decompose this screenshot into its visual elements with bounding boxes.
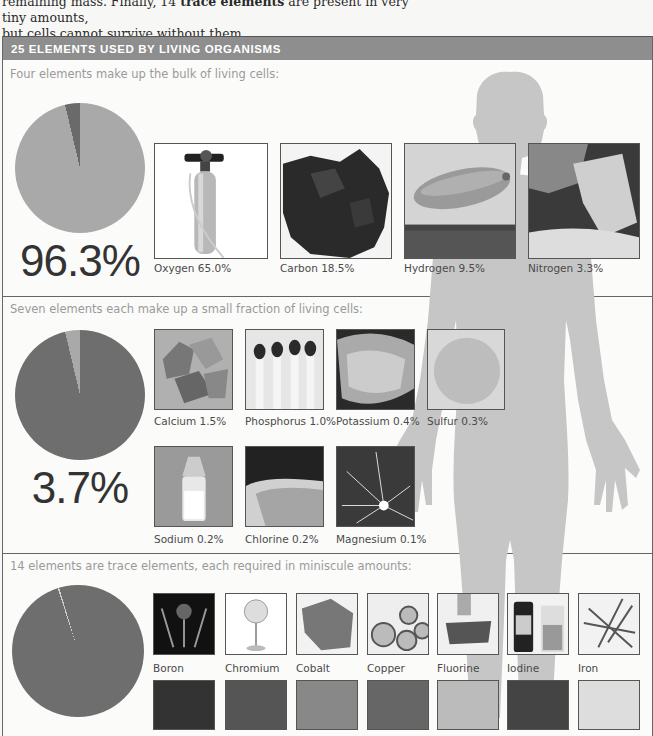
mirror-icon — [226, 594, 286, 654]
cobalt-ore-icon — [297, 594, 357, 654]
matches-icon — [246, 330, 323, 409]
label-nitrogen: Nitrogen 3.3% — [528, 262, 603, 274]
thumb-sodium — [154, 446, 233, 527]
minor-elements-percent: 3.7% — [20, 463, 140, 513]
thumb-trace-row2-2 — [225, 680, 287, 730]
thumb-oxygen — [154, 143, 268, 259]
thumb-potassium — [336, 329, 415, 410]
airship-icon — [405, 144, 515, 258]
section2-subtitle: Seven elements each make up a small frac… — [10, 302, 363, 316]
section3-subtitle: 14 elements are trace elements, each req… — [10, 559, 412, 573]
thumb-iron — [578, 593, 640, 655]
label-chlorine: Chlorine 0.2% — [245, 533, 319, 545]
toothbrush-icon — [438, 594, 498, 654]
fertilizer-bag-icon — [529, 144, 639, 258]
thumb-trace-row2-5 — [437, 680, 499, 730]
panel-title: 25 ELEMENTS USED BY LIVING ORGANISMS — [3, 36, 652, 60]
label-calcium: Calcium 1.5% — [154, 415, 226, 427]
copper-pipes-icon — [368, 594, 428, 654]
thumb-trace-row2-3 — [296, 680, 358, 730]
label-magnesium: Magnesium 0.1% — [336, 533, 427, 545]
section-divider — [3, 296, 652, 297]
pie-chart-major-elements — [15, 103, 145, 233]
pie-chart-minor-elements — [15, 330, 145, 460]
label-potassium: Potassium 0.4% — [336, 415, 420, 427]
coal-lump-icon — [281, 144, 391, 258]
section-divider — [3, 553, 652, 554]
label-carbon: Carbon 18.5% — [280, 262, 355, 274]
trace-elements-term: trace elements — [180, 0, 284, 9]
thumb-magnesium — [336, 446, 415, 527]
label-copper: Copper — [367, 662, 405, 674]
thumb-sulfur — [427, 329, 505, 410]
label-hydrogen: Hydrogen 9.5% — [404, 262, 485, 274]
nails-icon — [579, 594, 639, 654]
sulfur-powder-icon — [428, 330, 504, 409]
intro-text: remaining mass. Finally, 14 — [2, 0, 180, 9]
label-sodium: Sodium 0.2% — [154, 533, 224, 545]
label-cobalt: Cobalt — [296, 662, 330, 674]
thumb-trace-row2-7 — [578, 680, 640, 730]
thumb-chromium — [225, 593, 287, 655]
calcium-rocks-icon — [155, 330, 232, 409]
thumb-nitrogen — [528, 143, 640, 259]
iodine-bottle-icon — [508, 594, 568, 654]
label-sulfur: Sulfur 0.3% — [427, 415, 488, 427]
salt-shaker-icon — [155, 447, 232, 526]
label-phosphorus: Phosphorus 1.0% — [245, 415, 336, 427]
thumb-phosphorus — [245, 329, 324, 410]
major-elements-percent: 96.3% — [20, 236, 140, 286]
section1-subtitle: Four elements make up the bulk of living… — [10, 67, 279, 81]
potash-in-hand-icon — [337, 330, 414, 409]
label-iron: Iron — [578, 662, 598, 674]
thumb-copper — [367, 593, 429, 655]
label-fluorine: Fluorine — [437, 662, 479, 674]
label-chromium: Chromium — [225, 662, 280, 674]
label-boron: Boron — [153, 662, 184, 674]
pie-chart-trace-elements — [12, 585, 144, 717]
oxygen-tank-icon — [155, 144, 267, 258]
thumb-trace-row2-6 — [507, 680, 569, 730]
label-oxygen: Oxygen 65.0% — [154, 262, 231, 274]
boron-apparatus-icon — [154, 594, 214, 654]
thumb-boron — [153, 593, 215, 655]
thumb-trace-row2-1 — [153, 680, 215, 730]
thumb-trace-row2-4 — [367, 680, 429, 730]
sparkler-icon — [337, 447, 414, 526]
thumb-fluorine — [437, 593, 499, 655]
label-iodine: Iodine — [507, 662, 539, 674]
thumb-chlorine — [245, 446, 324, 527]
thumb-iodine — [507, 593, 569, 655]
thumb-cobalt — [296, 593, 358, 655]
thumb-calcium — [154, 329, 233, 410]
thumb-carbon — [280, 143, 392, 259]
thumb-hydrogen — [404, 143, 516, 259]
swimming-pool-icon — [246, 447, 323, 526]
